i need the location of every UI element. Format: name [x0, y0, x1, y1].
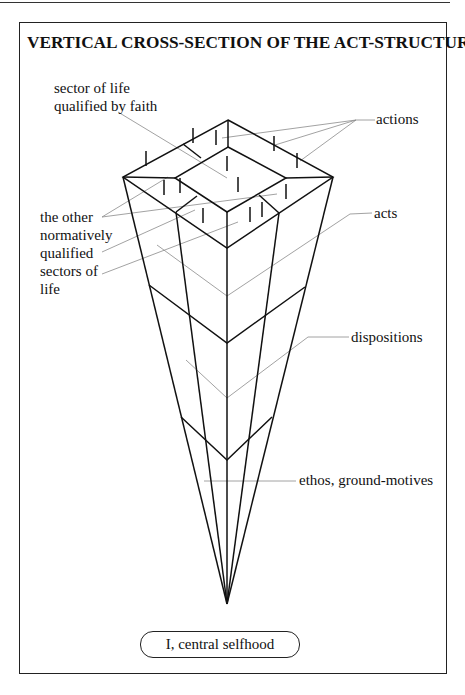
edge-right-mid — [227, 213, 279, 604]
leader-sectors — [102, 222, 238, 274]
edge-right — [227, 177, 333, 604]
label-other-sectors: the other normatively qualified sectors … — [40, 208, 112, 298]
divider-lower-left — [176, 196, 197, 212]
label-ethos: ethos, ground-motives — [299, 471, 433, 489]
label-dispositions: dispositions — [351, 328, 423, 346]
spoke-left — [123, 177, 175, 178]
pyramid-structure — [123, 120, 333, 604]
label-other-line-2: normatively — [40, 226, 112, 244]
label-other-line-4: sectors of — [40, 262, 112, 280]
leader-disp-d — [227, 337, 308, 398]
leader-actions-2 — [275, 120, 356, 145]
label-faith-line-1: sector of life — [54, 79, 157, 97]
leader-acts-l — [157, 245, 227, 296]
leader-acts-h — [350, 213, 372, 214]
edge-left — [123, 177, 227, 604]
spoke-right — [286, 177, 333, 178]
leader-disp-l — [186, 360, 227, 398]
label-other-line-5: life — [40, 280, 112, 298]
leader-actions-1 — [222, 120, 356, 138]
leader-lines — [102, 112, 375, 481]
central-selfhood-label: I, central selfhood — [166, 636, 275, 653]
label-other-line-1: the other — [40, 208, 112, 226]
label-actions: actions — [376, 110, 419, 128]
leader-faith — [118, 112, 227, 178]
label-faith-sector: sector of life qualified by faith — [54, 79, 157, 115]
label-acts: acts — [374, 204, 397, 222]
divider-upper-left — [183, 144, 201, 158]
label-other-line-3: qualified — [40, 244, 112, 262]
central-selfhood-badge: I, central selfhood — [140, 631, 300, 658]
leader-acts-d — [227, 214, 350, 296]
edge-left-mid — [176, 212, 227, 604]
label-faith-line-2: qualified by faith — [54, 97, 157, 115]
